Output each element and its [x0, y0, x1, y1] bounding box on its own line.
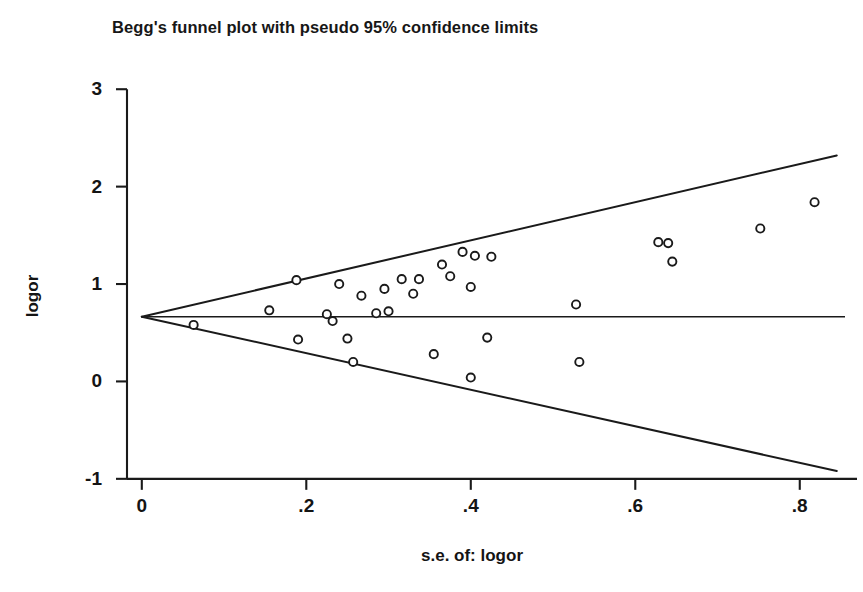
data-point-marker	[292, 276, 300, 284]
data-point-marker	[329, 317, 337, 325]
confidence-limits-group	[142, 155, 837, 471]
x-axis-tick-label: .2	[298, 495, 314, 517]
data-point-marker	[398, 275, 406, 283]
data-point-marker	[190, 321, 198, 329]
data-point-marker	[446, 272, 454, 280]
data-point-marker	[756, 224, 764, 232]
data-point-marker	[654, 238, 662, 246]
data-point-marker	[438, 260, 446, 268]
data-point-marker	[357, 292, 365, 300]
data-point-marker	[415, 275, 423, 283]
x-axis-tick-label: .8	[792, 495, 808, 517]
data-point-marker	[668, 258, 676, 266]
data-point-marker	[467, 283, 475, 291]
data-point-marker	[335, 280, 343, 288]
data-point-marker	[572, 300, 580, 308]
confidence-limit-line	[142, 155, 837, 316]
data-point-marker	[384, 307, 392, 315]
y-axis-tick-label: 0	[58, 370, 102, 392]
axes-group	[116, 89, 857, 490]
x-axis-tick-label: .4	[463, 495, 479, 517]
data-point-marker	[343, 334, 351, 342]
data-point-marker	[575, 358, 583, 366]
data-points-group	[190, 198, 819, 382]
data-point-marker	[664, 239, 672, 247]
x-axis-tick-label: .6	[627, 495, 643, 517]
data-point-marker	[380, 285, 388, 293]
funnel-plot-figure: Begg's funnel plot with pseudo 95% confi…	[0, 0, 863, 592]
x-axis-tick-label: 0	[137, 495, 148, 517]
y-axis-tick-label: 2	[58, 176, 102, 198]
plot-canvas	[0, 0, 863, 592]
data-point-marker	[294, 335, 302, 343]
data-point-marker	[372, 309, 380, 317]
y-axis-tick-label: 3	[58, 78, 102, 100]
data-point-marker	[349, 358, 357, 366]
data-point-marker	[430, 350, 438, 358]
data-point-marker	[467, 373, 475, 381]
data-point-marker	[483, 334, 491, 342]
data-point-marker	[487, 253, 495, 261]
data-point-marker	[409, 290, 417, 298]
data-point-marker	[471, 252, 479, 260]
y-axis-tick-label: -1	[58, 468, 102, 490]
data-point-marker	[265, 306, 273, 314]
y-axis-tick-label: 1	[58, 273, 102, 295]
data-point-marker	[458, 248, 466, 256]
data-point-marker	[810, 198, 818, 206]
